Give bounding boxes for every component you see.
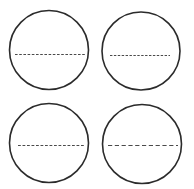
circle-top-right-outline	[102, 12, 180, 90]
circle-group-bottom-left	[10, 104, 89, 183]
circle-group-top-right	[102, 12, 180, 90]
circle-bottom-left-outline	[10, 104, 89, 183]
circle-bottom-right-outline	[103, 105, 182, 184]
figure-canvas	[0, 0, 194, 189]
four-circles-figure	[0, 0, 194, 189]
circle-group-top-left	[10, 11, 89, 90]
circle-top-left-outline	[10, 11, 89, 90]
circle-group-bottom-right	[103, 105, 182, 184]
